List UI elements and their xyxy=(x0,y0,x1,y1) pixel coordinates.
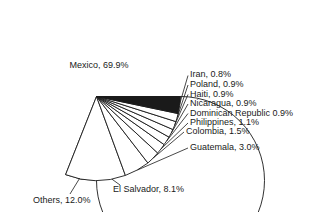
pie-chart-canvas: Mexico, 69.9% Iran, 0.8% Poland, 0.9% Ha… xyxy=(0,0,312,212)
slice-label-iran: Iran, 0.8% xyxy=(190,69,231,79)
slice-label-el-salvador: El Salvador, 8.1% xyxy=(113,184,184,194)
slice-label-nicaragua: Nicaragua, 0.9% xyxy=(190,98,257,108)
slice-label-haiti: Haiti, 0.9% xyxy=(190,89,234,99)
slice-label-dominican-republic: Dominican Republic 0.9% xyxy=(190,108,293,118)
pie-chart: Mexico, 69.9% Iran, 0.8% Poland, 0.9% Ha… xyxy=(0,0,312,212)
slice-label-poland: Poland, 0.9% xyxy=(190,79,244,89)
slice-label-colombia: Colombia, 1.5% xyxy=(186,126,250,136)
slice-label-guatemala: Guatemala, 3.0% xyxy=(190,142,260,152)
slice-label-mexico: Mexico, 69.9% xyxy=(69,60,128,70)
slice-label-others: Others, 12.0% xyxy=(33,195,91,205)
